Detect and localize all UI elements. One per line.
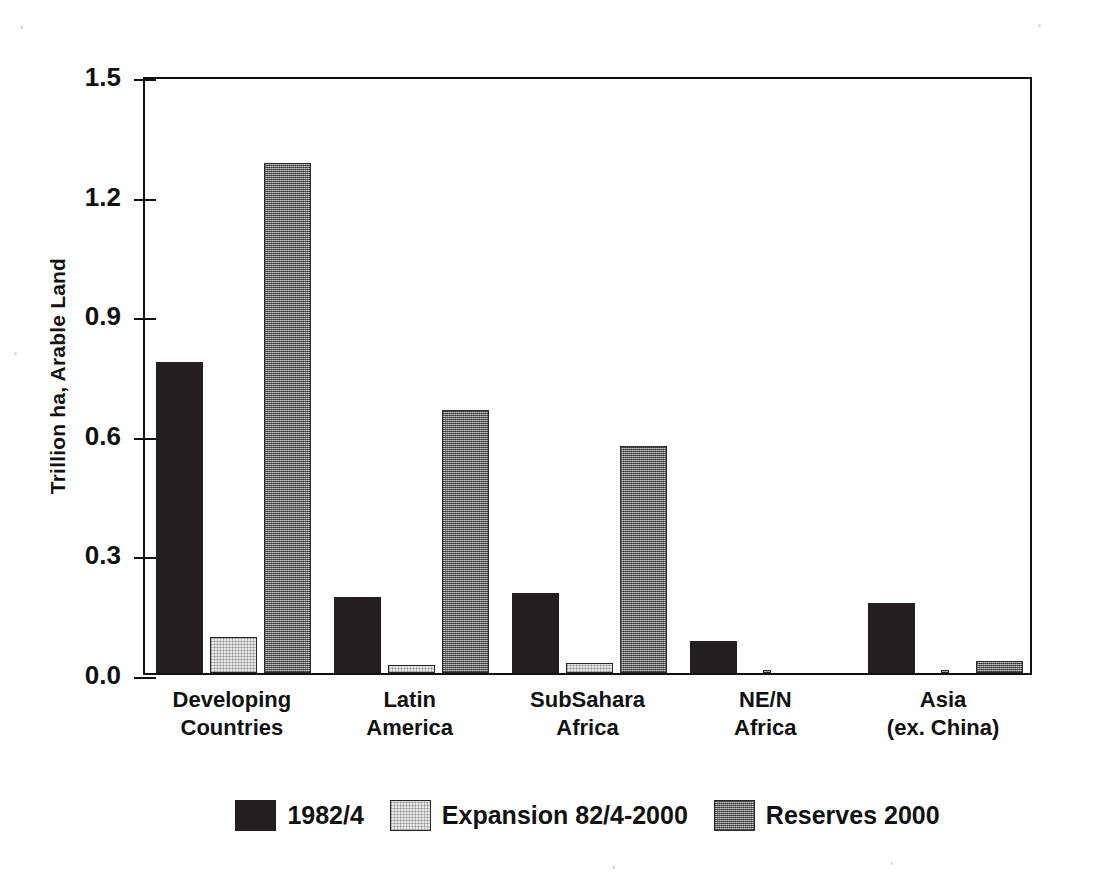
y-axis-tick-label: 0.3 [41,540,121,571]
legend-label: Reserves 2000 [766,801,940,830]
bar-group [690,79,845,673]
bar[interactable] [690,641,737,673]
bar[interactable] [620,446,667,673]
legend-item[interactable]: 1982/4 [235,800,363,831]
scan-speck [14,352,17,355]
bar-group [334,79,489,673]
bar[interactable] [334,597,381,673]
x-axis-category-label: NE/NAfrica [676,686,854,742]
x-axis-category-line: SubSahara [499,686,677,714]
x-axis-category-line: America [321,714,499,742]
bar[interactable] [566,663,613,673]
bar[interactable] [388,665,435,673]
x-axis-category-line: (ex. China) [854,714,1032,742]
scan-speck [612,866,615,869]
x-axis-category-labels: DevelopingCountriesLatinAmericaSubSahara… [143,686,1032,766]
scan-speck [20,26,23,29]
y-axis-tick-mark [134,557,156,559]
x-axis-category-line: NE/N [676,686,854,714]
bar[interactable] [442,410,489,673]
legend-label: Expansion 82/4-2000 [442,801,688,830]
bar[interactable] [868,603,915,673]
bar[interactable] [941,670,949,673]
legend-swatch-icon [390,800,431,831]
bar[interactable] [264,163,311,673]
x-axis-category-line: Latin [321,686,499,714]
x-axis-category-label: LatinAmerica [321,686,499,742]
bar[interactable] [210,637,257,673]
x-axis-category-line: Africa [499,714,677,742]
y-axis-tick-label: 0.6 [41,420,121,451]
x-axis-category-label: SubSaharaAfrica [499,686,677,742]
bar-group [156,79,311,673]
y-axis-tick-label: 0.9 [41,301,121,332]
legend-item[interactable]: Expansion 82/4-2000 [390,800,688,831]
x-axis-category-label: DevelopingCountries [143,686,321,742]
y-axis-tick-label: 0.0 [41,660,121,691]
legend-item[interactable]: Reserves 2000 [714,800,940,831]
chart-legend: 1982/4Expansion 82/4-2000Reserves 2000 [143,792,1032,838]
x-axis-category-line: Africa [676,714,854,742]
legend-swatch-icon [235,800,276,831]
scan-speck [890,862,893,865]
y-axis-tick-mark [134,199,156,201]
plot-area [143,77,1032,675]
bar-group [868,79,1023,673]
legend-label: 1982/4 [287,801,363,830]
bar-group [512,79,667,673]
bar[interactable] [976,661,1023,673]
y-axis-tick-mark [134,318,156,320]
bar[interactable] [156,362,203,673]
y-axis-tick-mark [134,438,156,440]
bar-chart-figure: Trillion ha, Arable Land 0.00.30.60.91.2… [0,0,1093,873]
bar[interactable] [763,670,771,673]
x-axis-category-label: Asia(ex. China) [854,686,1032,742]
y-axis-title: Trillion ha, Arable Land [38,77,78,675]
scan-speck [1038,24,1041,27]
y-axis-tick-label: 1.2 [41,181,121,212]
y-axis-tick-mark [134,677,156,679]
y-axis-tick-mark [134,79,156,81]
legend-swatch-icon [714,800,755,831]
bar[interactable] [512,593,559,673]
x-axis-category-line: Developing [143,686,321,714]
x-axis-category-line: Asia [854,686,1032,714]
x-axis-category-line: Countries [143,714,321,742]
y-axis-tick-label: 1.5 [41,62,121,93]
